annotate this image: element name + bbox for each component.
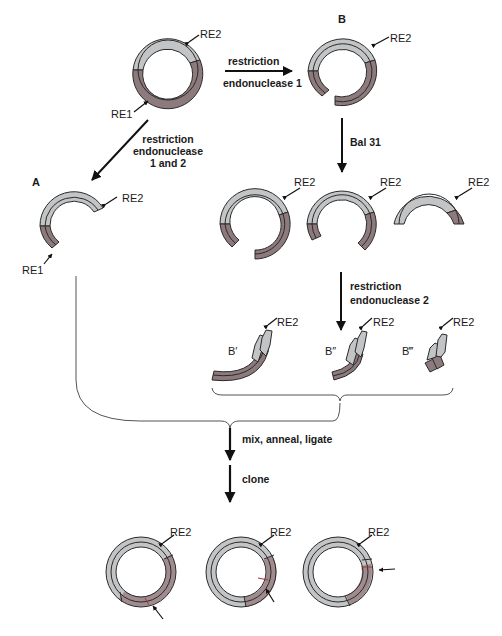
fragments-bracket (212, 388, 453, 401)
junction-pointer-prod3 (379, 569, 395, 570)
label-b: B (338, 13, 346, 26)
diagram-canvas (0, 0, 502, 636)
recombinant-product-3 (303, 537, 373, 607)
label-re2-btprime: RE2 (453, 316, 474, 329)
re2-pointer-bprime (268, 318, 277, 325)
re2-pointer-del1 (287, 188, 300, 196)
label-step-re2-line1: restriction (350, 280, 401, 293)
deletion-product-3 (394, 194, 464, 224)
label-a: A (32, 176, 40, 189)
re2-pointer-del2 (373, 188, 386, 196)
label-b-triple-prime: B‴ (402, 345, 413, 358)
deletion-mutagenesis-diagram: RE2 RE1 restriction endonuclease 1 restr… (0, 0, 502, 636)
label-bal31: Bal 31 (350, 136, 381, 149)
re1-pointer-top (134, 101, 148, 112)
re2-pointer-top (189, 35, 199, 42)
fragment-a (40, 192, 103, 248)
label-step-re2-line2: endonuclease 2 (350, 294, 429, 307)
label-re1-top: RE1 (111, 108, 132, 121)
recombinant-product-1 (106, 537, 176, 607)
re2-pointer-bdprime (363, 318, 372, 326)
label-re2-prod2: RE2 (270, 526, 291, 539)
label-step-b-line1: restriction (228, 55, 288, 68)
label-b-double-prime: B″ (325, 345, 336, 358)
label-re2-bprime: RE2 (277, 316, 298, 329)
junction-pointer-prod1 (153, 606, 163, 619)
label-step-b-line2: endonuclease 1 (223, 77, 302, 90)
label-re2-prod1: RE2 (170, 526, 191, 539)
label-re2-del3: RE2 (468, 176, 489, 189)
plasmid-b-linearized (308, 39, 377, 106)
label-re2-bdprime: RE2 (373, 316, 394, 329)
fragment-b-triple-prime (425, 334, 447, 372)
label-re2-top: RE2 (200, 28, 221, 41)
label-clone: clone (242, 473, 269, 486)
label-re2-b: RE2 (390, 32, 411, 45)
label-re2-prod3: RE2 (368, 526, 389, 539)
label-re1-a: RE1 (22, 264, 43, 277)
label-mix-anneal-ligate: mix, anneal, ligate (242, 433, 332, 446)
merge-bracket (76, 276, 340, 428)
re2-pointer-del3 (459, 188, 472, 196)
deletion-product-1 (220, 189, 290, 259)
fragment-b-double-prime (332, 331, 367, 380)
deletion-product-2 (307, 191, 376, 250)
label-b-prime: B′ (228, 345, 237, 358)
label-step-a-line3: 1 and 2 (128, 157, 208, 170)
re2-pointer-btprime (443, 318, 453, 326)
re1-pointer-a (44, 254, 52, 264)
label-re2-a: RE2 (122, 192, 143, 205)
recombinant-product-2 (206, 537, 276, 607)
label-re2-del1: RE2 (294, 176, 315, 189)
plasmid-intact (133, 39, 203, 109)
label-re2-del2: RE2 (380, 176, 401, 189)
fragment-b-prime (212, 330, 272, 381)
re2-pointer-b (376, 37, 389, 44)
re2-pointer-a (106, 197, 117, 204)
